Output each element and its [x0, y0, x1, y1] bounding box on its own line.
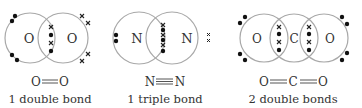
bond-caption: 1 triple bond [127, 92, 203, 106]
formula-atom: O [59, 75, 69, 89]
electron-dots-icon [114, 33, 118, 43]
formula-atom: O [318, 75, 328, 89]
oxygen-atom-shell-left [240, 14, 288, 62]
bond-caption: 1 double bond [8, 92, 92, 106]
formula-atom: N [145, 75, 156, 89]
electron-crosses-icon [207, 33, 210, 42]
covalent-bonding-diagram: O O O O 1 double bond [0, 0, 362, 108]
formula-atom: C [288, 75, 297, 89]
bond-caption: 2 double bonds [248, 92, 337, 106]
atom-label: O [67, 31, 78, 46]
carbon-dioxide-molecule: O C O O C O 2 double b [238, 14, 349, 106]
atom-label: O [252, 32, 262, 46]
atom-label: O [325, 32, 335, 46]
atom-label: N [131, 31, 142, 46]
formula-atom: O [31, 75, 41, 89]
oxygen-atom-shell-right [38, 13, 88, 63]
nitrogen-molecule: N N N N 1 triple bond [113, 12, 210, 106]
electron-dots-icon [10, 14, 19, 62]
atom-label: N [181, 31, 192, 46]
formula-atom: N [175, 75, 186, 89]
atom-label: C [289, 32, 298, 46]
oxygen-atom-shell-right [300, 14, 348, 62]
atom-label: O [24, 31, 35, 46]
double-bond-icon [42, 80, 58, 83]
formula-atom: O [259, 75, 269, 89]
triple-bond-icon [156, 79, 173, 84]
oxygen-molecule: O O O O 1 double bond [5, 13, 92, 106]
